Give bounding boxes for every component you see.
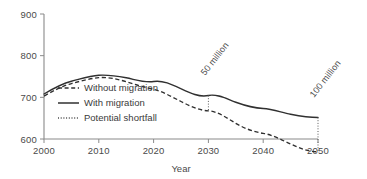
y-tick-label-600: 600	[21, 134, 37, 145]
x-tick-label-2040: 2040	[252, 145, 274, 156]
legend-item-potential-shortfall: Potential shortfall	[58, 112, 157, 123]
legend-item-without-migration: Without migration	[58, 82, 158, 93]
x-tick-marks	[44, 139, 318, 143]
population-projection-line-chart: 900 800 700 600 2000 2010 2020 2030 2040…	[0, 0, 367, 179]
legend-label-potential-shortfall: Potential shortfall	[84, 112, 157, 123]
x-axis-tick-labels: 2000 2010 2020 2030 2040 2050	[33, 145, 329, 156]
annotation-100-million: 100 million	[308, 58, 343, 99]
x-tick-label-2000: 2000	[33, 145, 55, 156]
x-tick-label-2010: 2010	[88, 145, 110, 156]
x-axis-title: Year	[171, 163, 190, 174]
legend-label-without-migration: Without migration	[84, 82, 158, 93]
legend-label-with-migration: With migration	[84, 97, 145, 108]
shortfall-connectors	[208, 96, 318, 152]
chart-legend: Without migration With migration Potenti…	[58, 82, 158, 123]
y-tick-label-900: 900	[21, 9, 37, 20]
y-tick-label-700: 700	[21, 92, 37, 103]
x-tick-label-2030: 2030	[197, 145, 219, 156]
y-tick-label-800: 800	[21, 50, 37, 61]
y-axis-tick-labels: 900 800 700 600	[21, 9, 37, 145]
legend-item-with-migration: With migration	[58, 97, 145, 108]
x-tick-label-2020: 2020	[143, 145, 165, 156]
y-tick-marks	[40, 14, 44, 139]
chart-figure: 900 800 700 600 2000 2010 2020 2030 2040…	[0, 0, 367, 179]
annotation-50-million: 50 million	[199, 40, 231, 77]
shortfall-annotations: 50 million 100 million	[199, 40, 343, 99]
